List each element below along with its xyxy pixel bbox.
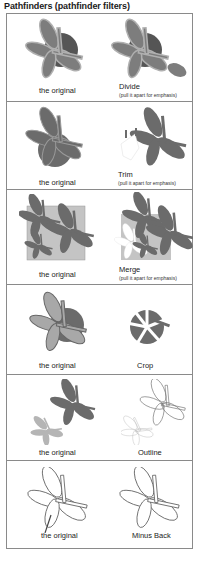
trim-result-illustration [117, 104, 193, 174]
divide-note: (pull it apart for emphasis) [119, 92, 177, 98]
outline-result-illustration [121, 379, 193, 445]
merge-result-illustration [111, 192, 193, 264]
trim-label: Trim [118, 170, 133, 179]
panel-divide: the original Divide (pull it apart for e… [7, 14, 192, 102]
divide-result-illustration [111, 18, 191, 80]
page-title: Pathfinders (pathfinder filters) [4, 1, 130, 11]
original-label: the original [39, 86, 76, 95]
outline-label: Outline [138, 448, 162, 457]
original-dragonfly-illustration [19, 194, 99, 264]
merge-label: Merge [119, 265, 140, 274]
original-label: the original [39, 270, 76, 279]
original-dragonfly-illustration [27, 289, 97, 355]
merge-note: (pull it apart for emphasis) [119, 275, 177, 281]
original-dragonfly-illustration [29, 379, 101, 445]
crop-label: Crop [137, 361, 153, 370]
original-label: the original [41, 531, 78, 540]
original-dragonfly-illustration [23, 106, 93, 172]
original-dragonfly-illustration [25, 467, 101, 533]
original-dragonfly-illustration [21, 18, 91, 80]
panel-minus-back: the original Minus Back [7, 461, 192, 550]
panel-merge: the original Merge (pull it apart for em… [7, 190, 192, 285]
trim-note: (pull it apart for emphasis) [118, 180, 176, 186]
minus-back-label: Minus Back [132, 531, 171, 540]
original-label: the original [39, 178, 76, 187]
divide-label: Divide [119, 82, 140, 91]
minus-back-result-illustration [117, 467, 193, 533]
pathfinder-examples-frame: the original Divide (pull it apart for e… [6, 13, 193, 549]
crop-result-illustration [125, 305, 171, 351]
panel-crop: the original Crop [7, 285, 192, 375]
original-label: the original [39, 448, 76, 457]
panel-outline: the original Outline [7, 375, 192, 461]
original-label: the original [39, 361, 76, 370]
panel-trim: the original Trim (pull it apart for emp… [7, 102, 192, 190]
